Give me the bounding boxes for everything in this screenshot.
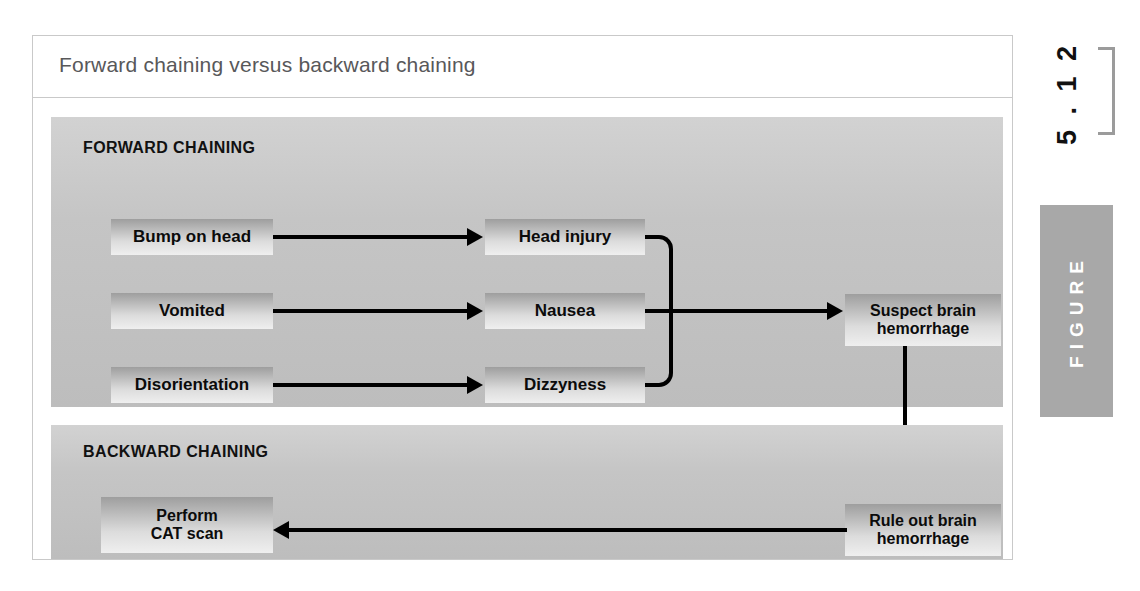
connector-disorientation-to-dizzyness [273,383,469,387]
node-bump-on-head: Bump on head [111,219,273,255]
node-rule-out-brain-hemorrhage: Rule out brain hemorrhage [845,504,1001,556]
connector-rule-out-to-cat-scan [289,528,847,532]
node-disorientation: Disorientation [111,367,273,403]
node-dizzyness: Dizzyness [485,367,645,403]
backward-chaining-title: BACKWARD CHAINING [83,443,268,461]
node-suspect-brain-hemorrhage: Suspect brain hemorrhage [845,294,1001,346]
arrowhead-bump-to-head-injury [467,228,483,246]
arrowhead-vomited-to-nausea [467,302,483,320]
arrowhead-rule-out-to-cat-scan [273,521,289,539]
forward-chaining-title: FORWARD CHAINING [83,139,255,157]
backward-chaining-panel: BACKWARD CHAINING Rule out brain hemorrh… [51,425,1003,559]
figure-panel: Forward chaining versus backward chainin… [32,35,1013,560]
figure-number-text: 5 . 1 2 [1053,41,1084,144]
node-head-injury: Head injury [485,219,645,255]
figure-bracket-icon [1098,47,1115,135]
figure-caption-text: Forward chaining versus backward chainin… [59,53,476,77]
connector-brace-to-suspect [645,309,829,313]
node-nausea: Nausea [485,293,645,329]
node-perform-cat-scan: Perform CAT scan [101,497,273,553]
arrowhead-disorientation-to-dizzyness [467,376,483,394]
node-vomited: Vomited [111,293,273,329]
connector-vomited-to-nausea [273,309,469,313]
figure-tab: FIGURE [1040,205,1113,417]
arrowhead-brace-to-suspect [827,302,843,320]
connector-bump-to-head-injury [273,235,469,239]
forward-chaining-panel: FORWARD CHAINING Bump on head Vomited Di… [51,117,1003,407]
figure-number: 5 . 1 2 [1046,34,1090,152]
figure-tab-text: FIGURE [1066,254,1088,368]
figure-caption-bar: Forward chaining versus backward chainin… [33,36,1012,98]
